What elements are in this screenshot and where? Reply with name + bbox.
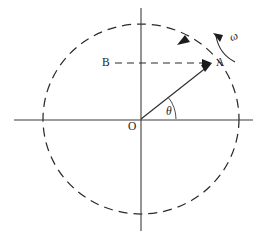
figure-canvas bbox=[0, 0, 261, 236]
radius-oa-line bbox=[141, 67, 207, 119]
omega-arrowhead bbox=[213, 33, 223, 42]
origin-label: O bbox=[128, 121, 136, 133]
point-a-label: A bbox=[216, 57, 224, 69]
point-b-label: B bbox=[102, 57, 110, 69]
theta-label: θ bbox=[166, 106, 172, 118]
circular-motion-figure: O A B θ ω bbox=[0, 0, 261, 236]
circle-direction-arrowhead bbox=[177, 35, 190, 45]
